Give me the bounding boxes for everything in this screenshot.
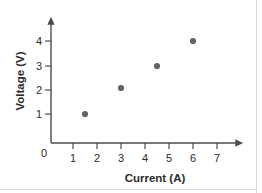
y-axis-ticks [45, 41, 51, 114]
data-point-series [82, 38, 196, 117]
y-tick-label-1: 1 [36, 108, 42, 120]
x-axis-title: Current (A) [125, 172, 186, 184]
x-tick-label-2: 2 [94, 152, 100, 164]
y-tick-label-2: 2 [36, 84, 42, 96]
origin-label: 0 [41, 147, 47, 159]
x-axis-ticks [73, 143, 217, 149]
chart-page: 1 2 3 4 5 6 7 0 1 2 3 4 [0, 0, 262, 193]
x-tick-label-4: 4 [142, 152, 148, 164]
data-point [190, 38, 196, 44]
x-tick-label-3: 3 [118, 152, 124, 164]
data-point [118, 85, 124, 91]
y-axis-tick-labels: 1 2 3 4 [36, 35, 42, 120]
y-tick-label-4: 4 [36, 35, 42, 47]
scatter-plot: 1 2 3 4 5 6 7 0 1 2 3 4 [0, 0, 262, 193]
x-tick-label-5: 5 [166, 152, 172, 164]
x-tick-label-6: 6 [190, 152, 196, 164]
x-tick-label-1: 1 [70, 152, 76, 164]
data-point [154, 63, 160, 69]
x-axis-tick-labels: 1 2 3 4 5 6 7 [70, 152, 220, 164]
data-point [82, 111, 88, 117]
y-axis-title: Voltage (V) [14, 51, 26, 110]
x-tick-label-7: 7 [214, 152, 220, 164]
chart-svg: 1 2 3 4 5 6 7 0 1 2 3 4 [0, 0, 262, 193]
y-tick-label-3: 3 [36, 60, 42, 72]
